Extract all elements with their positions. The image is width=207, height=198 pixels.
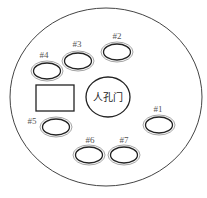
port-outer-ring [101, 42, 133, 62]
port-label: #4 [40, 50, 50, 60]
port-label: #5 [28, 116, 38, 126]
port-outer-ring [40, 117, 72, 137]
port-outer-ring [143, 115, 175, 135]
equipment-rectangle [36, 85, 74, 111]
port-inner-ring [104, 44, 131, 60]
port-inner-ring [111, 147, 138, 163]
port-5: #5 [28, 116, 73, 137]
port-outer-ring [31, 61, 63, 81]
port-4: #4 [31, 50, 63, 81]
port-inner-ring [146, 117, 173, 133]
port-inner-ring [76, 147, 103, 163]
vessel-layout-diagram: 人孔门 #1#2#3#4#5#6#7 [0, 0, 207, 198]
port-outer-ring [73, 145, 105, 165]
port-inner-ring [65, 53, 92, 69]
port-label: #1 [154, 104, 163, 114]
port-outer-ring [108, 145, 140, 165]
port-inner-ring [43, 119, 70, 135]
port-1: #1 [143, 104, 175, 135]
port-outer-ring [62, 51, 94, 71]
manhole-door-label: 人孔门 [93, 91, 123, 103]
port-7: #7 [108, 135, 140, 165]
port-2: #2 [101, 31, 133, 62]
port-label: #6 [86, 135, 96, 145]
port-3: #3 [62, 39, 94, 71]
port-label: #7 [120, 135, 130, 145]
port-inner-ring [34, 63, 61, 79]
port-label: #3 [73, 39, 83, 49]
port-label: #2 [113, 31, 122, 41]
port-6: #6 [73, 135, 105, 165]
